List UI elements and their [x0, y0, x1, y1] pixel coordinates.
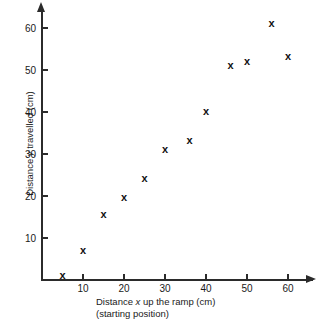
y-tick-mark	[42, 153, 48, 154]
y-tick-mark	[42, 237, 48, 238]
y-tick-label: 10	[16, 233, 36, 244]
data-point-marker: x	[78, 245, 88, 256]
y-axis-label: Distance y travelled (cm)	[24, 69, 35, 219]
x-tick-mark	[246, 274, 247, 280]
x-tick-label: 60	[275, 283, 301, 294]
y-tick-mark	[42, 27, 48, 28]
data-point-marker: x	[283, 51, 293, 62]
x-axis-label-suffix: up the ramp (cm)	[140, 296, 215, 307]
data-point-marker: x	[201, 106, 211, 117]
y-axis-arrow-icon	[37, 2, 45, 12]
x-axis-label: Distance x up the ramp (cm) (starting po…	[96, 296, 215, 320]
x-axis-label-subtitle: (starting position)	[96, 308, 215, 320]
x-tick-label: 40	[193, 283, 219, 294]
data-point-marker: x	[242, 56, 252, 67]
y-axis-label-prefix: Distance	[24, 156, 35, 196]
y-tick-mark	[42, 111, 48, 112]
x-tick-mark	[287, 274, 288, 280]
data-point-marker: x	[226, 60, 236, 71]
y-tick-mark	[42, 195, 48, 196]
data-point-marker: x	[160, 144, 170, 155]
x-tick-mark	[123, 274, 124, 280]
data-point-marker: x	[267, 18, 277, 29]
x-tick-label: 20	[111, 283, 137, 294]
x-tick-mark	[82, 274, 83, 280]
x-tick-mark	[205, 274, 206, 280]
y-axis-label-suffix: travelled (cm)	[24, 91, 35, 151]
data-point-marker: x	[140, 173, 150, 184]
x-tick-label: 30	[152, 283, 178, 294]
y-tick-label: 60	[16, 23, 36, 34]
y-axis-label-variable: y	[24, 151, 35, 156]
data-point-marker: x	[99, 209, 109, 220]
x-tick-mark	[164, 274, 165, 280]
data-point-marker: x	[119, 192, 129, 203]
scatter-plot-figure: 102030405060 102030405060 xxxxxxxxxxxx D…	[0, 0, 325, 326]
data-point-marker: x	[58, 270, 68, 281]
x-axis-arrow-icon	[306, 275, 316, 283]
y-axis-line	[41, 10, 43, 281]
data-point-marker: x	[185, 135, 195, 146]
x-axis-label-prefix: Distance	[96, 296, 136, 307]
y-tick-mark	[42, 69, 48, 70]
x-tick-label: 10	[70, 283, 96, 294]
x-tick-label: 50	[234, 283, 260, 294]
